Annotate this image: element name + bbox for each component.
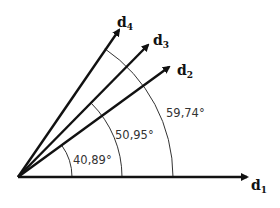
angle-label-d1-d2: 40,89°: [73, 153, 112, 167]
label-d2: d2: [177, 62, 193, 80]
angle-arc-d1-d2: [62, 145, 72, 177]
angle-label-d1-d4: 59,74°: [166, 106, 205, 120]
angle-label-d1-d3: 50,95°: [115, 128, 154, 142]
vector-angle-diagram: d1 d2 d3 d4 40,89° 50,95° 59,74°: [0, 0, 280, 208]
label-d3: d3: [153, 32, 169, 50]
label-d4: d4: [117, 14, 133, 32]
label-d1: d1: [251, 177, 267, 195]
angle-arc-d1-d4: [105, 49, 173, 177]
